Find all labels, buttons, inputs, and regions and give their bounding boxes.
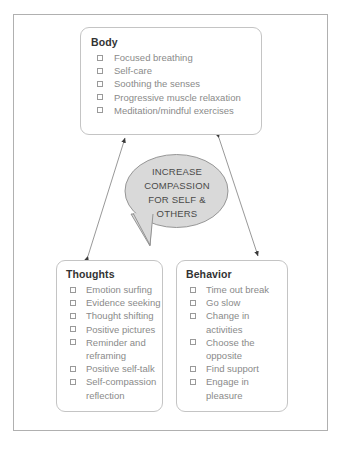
checkbox-icon[interactable] — [97, 55, 103, 61]
list-item[interactable]: Time out break — [190, 283, 287, 296]
checkbox-icon[interactable] — [190, 313, 196, 319]
list-item[interactable]: Self-care — [97, 64, 261, 77]
list-item[interactable]: Find support — [190, 362, 287, 375]
list-item[interactable]: Soothing the senses — [97, 77, 261, 90]
checkbox-icon[interactable] — [190, 339, 196, 345]
checkbox-icon[interactable] — [70, 379, 76, 385]
list-item-label: Self-compassion reflection — [86, 375, 156, 401]
list-item-label: Soothing the senses — [114, 77, 200, 90]
card-body: Body Focused breathing Self-care Soothin… — [80, 27, 262, 135]
list-item[interactable]: Positive self-talk — [70, 362, 162, 375]
card-body-title: Body — [91, 36, 261, 48]
bubble-text: INCREASE COMPASSION FOR SELF & OTHERS — [129, 165, 225, 221]
checkbox-icon[interactable] — [190, 300, 196, 306]
list-item[interactable]: Go slow — [190, 296, 287, 309]
list-item-label: Emotion surfing — [86, 283, 152, 296]
list-item-label: Progressive muscle relaxation — [114, 91, 241, 104]
card-behavior-title: Behavior — [186, 268, 287, 280]
list-item-label: Evidence seeking — [86, 296, 160, 309]
list-item[interactable]: Positive pictures — [70, 323, 162, 336]
list-item[interactable]: Reminder and reframing — [70, 336, 162, 362]
checkbox-icon[interactable] — [70, 313, 76, 319]
list-item-label: Focused breathing — [114, 51, 193, 64]
checkbox-icon[interactable] — [70, 339, 76, 345]
card-thoughts-checklist: Emotion surfing Evidence seeking Thought… — [57, 283, 162, 402]
list-item-label: Thought shifting — [86, 309, 154, 322]
list-item[interactable]: Engage in pleasure — [190, 375, 287, 401]
checkbox-icon[interactable] — [97, 68, 103, 74]
checkbox-icon[interactable] — [190, 287, 196, 293]
list-item-label: Find support — [206, 362, 259, 375]
card-behavior-checklist: Time out break Go slow Change in activit… — [177, 283, 287, 402]
checkbox-icon[interactable] — [97, 81, 103, 87]
list-item[interactable]: Evidence seeking — [70, 296, 162, 309]
list-item-label: Choose the opposite — [206, 336, 255, 362]
checkbox-icon[interactable] — [70, 366, 76, 372]
list-item-label: Reminder and reframing — [86, 336, 146, 362]
checkbox-icon[interactable] — [97, 94, 103, 100]
list-item-label: Self-care — [114, 64, 152, 77]
list-item[interactable]: Self-compassion reflection — [70, 375, 162, 401]
list-item[interactable]: Meditation/mindful exercises — [97, 104, 261, 117]
checkbox-icon[interactable] — [97, 107, 103, 113]
list-item-label: Time out break — [206, 283, 269, 296]
list-item-label: Change in activities — [206, 309, 249, 335]
list-item[interactable]: Thought shifting — [70, 309, 162, 322]
diagram-page: INCREASE COMPASSION FOR SELF & OTHERS Bo… — [0, 0, 342, 451]
checkbox-icon[interactable] — [190, 366, 196, 372]
list-item-label: Go slow — [206, 296, 240, 309]
card-body-checklist: Focused breathing Self-care Soothing the… — [81, 51, 261, 117]
list-item-label: Meditation/mindful exercises — [114, 104, 234, 117]
list-item-label: Positive self-talk — [86, 362, 155, 375]
list-item[interactable]: Choose the opposite — [190, 336, 287, 362]
card-thoughts: Thoughts Emotion surfing Evidence seekin… — [56, 260, 163, 412]
list-item[interactable]: Focused breathing — [97, 51, 261, 64]
list-item[interactable]: Change in activities — [190, 309, 287, 335]
checkbox-icon[interactable] — [70, 300, 76, 306]
card-thoughts-title: Thoughts — [66, 268, 162, 280]
checkbox-icon[interactable] — [70, 326, 76, 332]
list-item[interactable]: Emotion surfing — [70, 283, 162, 296]
checkbox-icon[interactable] — [70, 287, 76, 293]
list-item-label: Engage in pleasure — [206, 375, 249, 401]
list-item-label: Positive pictures — [86, 323, 155, 336]
list-item[interactable]: Progressive muscle relaxation — [97, 91, 261, 104]
card-behavior: Behavior Time out break Go slow Change i… — [176, 260, 288, 412]
checkbox-icon[interactable] — [190, 379, 196, 385]
